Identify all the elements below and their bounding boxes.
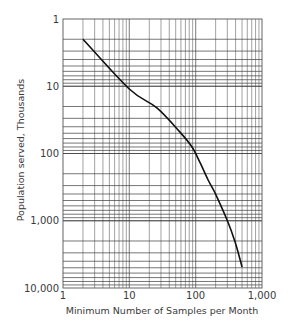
y-tick-label: 100 (40, 148, 59, 159)
y-tick-labels: 1101001,00010,000 (24, 14, 59, 294)
x-axis-label: Minimum Number of Samples per Month (66, 305, 259, 316)
series-line (83, 39, 242, 267)
x-tick-label: 10 (123, 290, 136, 301)
x-tick-label: 1 (60, 290, 66, 301)
x-tick-labels: 1101001,000 (60, 290, 277, 301)
x-tick-label: 100 (186, 290, 205, 301)
y-tick-label: 10 (46, 81, 59, 92)
x-tick-label: 1,000 (248, 290, 277, 301)
chart: 1101001,000 1101001,00010,000 Minimum Nu… (0, 0, 290, 329)
grid (63, 19, 262, 288)
y-axis-label: Population served, Thousands (15, 79, 26, 222)
y-tick-label: 10,000 (24, 283, 59, 294)
y-tick-label: 1 (53, 14, 59, 25)
series-layer (83, 39, 242, 267)
y-tick-label: 1,000 (30, 215, 59, 226)
